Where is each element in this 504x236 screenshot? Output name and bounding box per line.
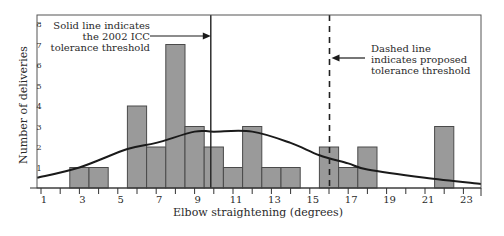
x-tick-label: 9 — [194, 194, 200, 205]
x-tick-label: 13 — [268, 194, 281, 205]
x-tick-label: 11 — [230, 194, 243, 205]
x-tick-label: 19 — [383, 194, 396, 205]
histogram-bar — [262, 168, 281, 189]
arrow-icon — [203, 33, 211, 40]
y-tick-label: 7 — [36, 41, 41, 50]
y-tick-label: 1 — [36, 164, 41, 173]
x-tick-label: 1 — [41, 194, 47, 205]
annotation-text: tolerance threshold — [371, 65, 471, 76]
histogram-bar — [339, 168, 358, 189]
histogram-bar — [281, 168, 300, 189]
y-tick-label: 4 — [36, 102, 41, 111]
histogram-bar — [243, 127, 262, 189]
annotation-text: Solid line indicates — [53, 20, 150, 31]
x-axis-ticks: 1357911131517192123 — [41, 188, 481, 205]
histogram-bar — [70, 168, 89, 189]
y-tick-label: 3 — [36, 123, 41, 132]
annotation-dashed-line: Dashed lineindicates proposedtolerance t… — [332, 43, 471, 76]
histogram-bar — [147, 147, 166, 188]
x-tick-label: 17 — [345, 194, 358, 205]
annotation-text: Dashed line — [371, 43, 431, 54]
y-tick-label: 5 — [36, 82, 41, 91]
x-tick-label: 23 — [460, 194, 473, 205]
annotation-solid-line: Solid line indicatesthe 2002 ICCtoleranc… — [51, 20, 211, 53]
y-tick-label: 2 — [36, 143, 41, 152]
y-tick-label: 6 — [36, 61, 41, 70]
annotation-text: tolerance threshold — [51, 42, 151, 53]
histogram-bar — [204, 147, 223, 188]
x-tick-label: 3 — [79, 194, 85, 205]
histogram-bar — [185, 127, 204, 189]
x-tick-label: 7 — [156, 194, 162, 205]
arrow-icon — [332, 55, 340, 62]
histogram-bar — [89, 168, 108, 189]
histogram-bar — [223, 168, 242, 189]
histogram-bar — [166, 45, 185, 189]
y-tick-label: 8 — [36, 20, 41, 29]
annotation-text: the 2002 ICC — [83, 31, 151, 42]
annotation-text: indicates proposed — [371, 54, 468, 65]
x-tick-label: 5 — [118, 194, 124, 205]
x-tick-label: 15 — [306, 194, 319, 205]
y-axis-label: Number of deliveries — [17, 46, 30, 164]
histogram-chart: 1357911131517192123 12345678 Solid line … — [0, 0, 504, 236]
x-tick-label: 21 — [422, 194, 435, 205]
x-axis-label: Elbow straightening (degrees) — [173, 206, 343, 219]
